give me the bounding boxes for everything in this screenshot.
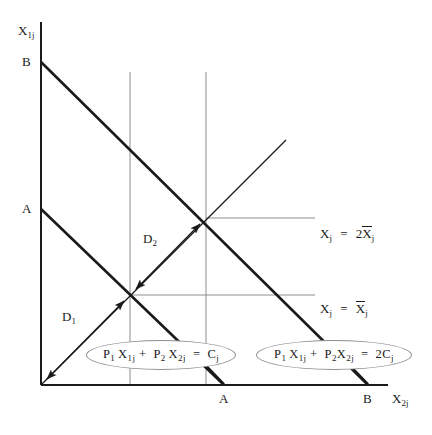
x-intercept-label-b: B: [363, 392, 372, 405]
y-intercept-label-b: B: [22, 55, 31, 68]
guide-label-xbar: Xj = Xj: [320, 301, 368, 318]
equation-ellipse-2cj-text: P1 X1j + P2X2j = 2Cj: [274, 347, 394, 363]
segment-label-d2-sub: 2: [152, 238, 157, 248]
budget-constraint-figure: X1j X2j B A A B D1 D2 Xj = 2Xj Xj = Xj P…: [0, 0, 432, 435]
guide-label-2xbar: Xj = 2Xj: [320, 226, 374, 243]
y-intercept-label-a: A: [22, 202, 31, 215]
distance-arrow-d1: [47, 301, 124, 379]
equation-ellipse-cj: P1 X1j + P2 X2j = Cj: [86, 340, 236, 370]
x-axis-label: X2j: [392, 392, 408, 408]
x-axis-label-text: X2j: [392, 391, 408, 406]
segment-label-d1-sub: 1: [71, 316, 76, 326]
y-axis-label-sub: 1j: [27, 30, 34, 40]
y-axis-label: X1j: [18, 24, 34, 40]
equation-ellipse-cj-text: P1 X1j + P2 X2j = Cj: [103, 347, 219, 363]
segment-label-d1: D1: [62, 310, 76, 326]
equation-ellipse-2cj: P1 X1j + P2X2j = 2Cj: [256, 340, 412, 370]
diagram-canvas: [0, 0, 432, 435]
y-axis-label-text: X1j: [18, 23, 34, 38]
segment-label-d2: D2: [143, 232, 157, 248]
x-axis-label-sub: 2j: [401, 398, 408, 408]
x-intercept-label-a: A: [219, 392, 228, 405]
